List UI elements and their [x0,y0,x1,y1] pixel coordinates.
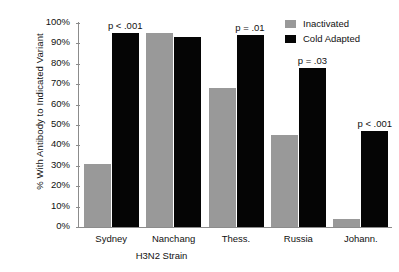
bar-group [209,23,264,227]
p-value-annotation: p = .03 [287,55,337,66]
y-axis-tick-label: 50% [51,118,70,129]
bar-inactivated [209,88,236,227]
x-axis-title: H3N2 Strain [0,250,361,261]
y-axis-tick-mark [76,227,80,228]
bar-inactivated [271,135,298,227]
plot-area: p < .001p = .01p = .03p < .001 [80,23,392,227]
legend-label-cold-adapted: Cold Adapted [303,33,360,44]
bar-cold-adapted [174,37,201,227]
y-axis-tick-label: 60% [51,98,70,109]
y-axis-tick-label: 100% [46,16,70,27]
p-value-annotation: p < .001 [100,20,150,31]
x-axis-line [78,227,392,228]
bar-inactivated [146,33,173,227]
chart-container: % With Antibody to Indicated Variant 0%1… [0,0,399,272]
bar-cold-adapted [361,131,388,227]
bar-inactivated [84,164,111,227]
legend-swatch-icon-inactivated [285,20,296,28]
bar-group [84,23,139,227]
bar-cold-adapted [299,68,326,227]
p-value-annotation: p = .01 [225,22,275,33]
x-axis-category-label: Sydney [80,233,142,244]
y-axis-tick-label: 30% [51,159,70,170]
y-axis-tick-label: 20% [51,179,70,190]
x-axis-category-label: Thess. [205,233,267,244]
bar-cold-adapted [237,35,264,227]
x-axis-category-label: Russia [267,233,329,244]
p-value-annotation: p < .001 [350,118,399,129]
y-axis-title: % With Antibody to Indicated Variant [34,2,45,222]
legend-label-inactivated: Inactivated [303,18,349,29]
legend: Inactivated Cold Adapted [285,16,360,46]
y-axis-tick-label: 10% [51,200,70,211]
bar-group [146,23,201,227]
y-axis-tick-label: 70% [51,77,70,88]
y-axis-tick-label: 0% [56,220,70,231]
y-axis-tick-label: 90% [51,36,70,47]
legend-swatch-icon-cold-adapted [285,35,296,43]
x-axis-category-label: Nanchang [142,233,204,244]
legend-item-inactivated: Inactivated [285,16,360,31]
bar-group [271,23,326,227]
legend-item-cold-adapted: Cold Adapted [285,31,360,46]
bar-inactivated [333,219,360,227]
y-axis-tick-label: 40% [51,138,70,149]
y-axis-tick-label: 80% [51,57,70,68]
x-axis-category-label: Johann. [330,233,392,244]
bar-cold-adapted [112,33,139,227]
